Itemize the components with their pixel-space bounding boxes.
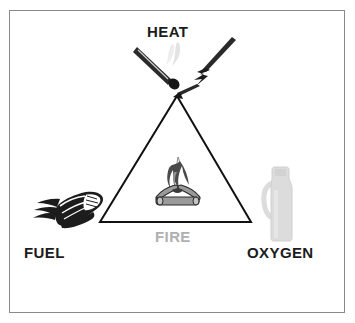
fire-triangle-diagram: HEAT FUEL OXYGEN FIRE bbox=[0, 0, 355, 323]
vertex-label-oxygen: OXYGEN bbox=[247, 245, 314, 260]
fire-center-label: FIRE bbox=[155, 229, 191, 244]
oxygen-bottle-icon bbox=[264, 167, 292, 241]
vertex-label-heat: HEAT bbox=[147, 24, 188, 39]
wood-kindling-icon bbox=[33, 192, 103, 229]
match-icon bbox=[133, 42, 182, 92]
vertex-label-fuel: FUEL bbox=[24, 245, 65, 260]
campfire-icon bbox=[156, 157, 200, 205]
lightning-bolt-icon bbox=[173, 37, 236, 99]
diagram-artwork bbox=[0, 0, 355, 323]
